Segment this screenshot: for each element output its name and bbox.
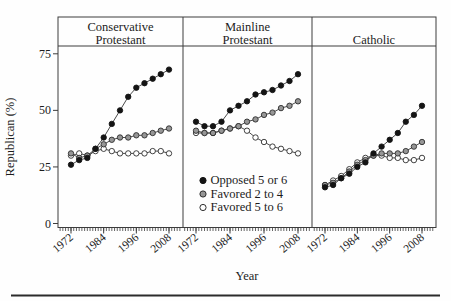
- legend-label: Favored 5 to 6: [211, 200, 284, 214]
- data-point-marker: [419, 155, 424, 160]
- data-point-marker: [227, 126, 232, 131]
- y-tick-label: 50: [39, 103, 51, 117]
- data-point-marker: [142, 133, 147, 138]
- data-point-marker: [253, 117, 258, 122]
- y-tick-label: 0: [45, 217, 51, 231]
- data-point-marker: [379, 151, 384, 156]
- data-point-marker: [261, 90, 266, 95]
- data-point-marker: [202, 130, 207, 135]
- data-point-marker: [219, 128, 224, 133]
- data-point-marker: [134, 151, 139, 156]
- data-point-marker: [142, 81, 147, 86]
- data-point-marker: [126, 151, 131, 156]
- data-point-marker: [253, 92, 258, 97]
- data-point-marker: [117, 108, 122, 113]
- data-point-marker: [253, 135, 258, 140]
- data-point-marker: [411, 157, 416, 162]
- data-point-marker: [134, 85, 139, 90]
- data-point-marker: [387, 137, 392, 142]
- data-point-marker: [236, 124, 241, 129]
- data-point-marker: [109, 121, 114, 126]
- data-point-marker: [101, 142, 106, 147]
- data-point-marker: [322, 185, 327, 190]
- data-point-marker: [166, 126, 171, 131]
- legend-marker-filled-black: [200, 177, 206, 183]
- legend-item: Favored 5 to 6: [200, 200, 283, 214]
- data-point-marker: [261, 112, 266, 117]
- data-point-marker: [261, 139, 266, 144]
- data-point-marker: [68, 162, 73, 167]
- data-point-marker: [270, 87, 275, 92]
- data-point-marker: [403, 157, 408, 162]
- data-point-marker: [193, 128, 198, 133]
- data-point-marker: [363, 160, 368, 165]
- data-point-marker: [134, 133, 139, 138]
- data-point-marker: [371, 151, 376, 156]
- data-point-marker: [166, 67, 171, 72]
- data-point-marker: [411, 112, 416, 117]
- data-point-marker: [126, 94, 131, 99]
- data-point-marker: [278, 146, 283, 151]
- legend-label: Opposed 5 or 6: [211, 173, 288, 187]
- data-point-marker: [150, 76, 155, 81]
- data-point-marker: [210, 124, 215, 129]
- figure-container: ConservativeProtestantMainlineProtestant…: [0, 0, 451, 301]
- data-point-marker: [295, 72, 300, 77]
- data-point-marker: [158, 148, 163, 153]
- y-tick-label: 75: [39, 47, 51, 61]
- data-point-marker: [126, 135, 131, 140]
- data-point-marker: [355, 164, 360, 169]
- legend-item: Favored 2 to 4: [200, 187, 284, 201]
- three-panel-line-chart: ConservativeProtestantMainlineProtestant…: [0, 0, 451, 301]
- data-point-marker: [244, 119, 249, 124]
- data-point-marker: [287, 103, 292, 108]
- data-point-marker: [244, 128, 249, 133]
- data-point-marker: [150, 148, 155, 153]
- data-point-marker: [85, 155, 90, 160]
- data-point-marker: [109, 148, 114, 153]
- panel-title-mainline-protestant: MainlineProtestant: [223, 20, 274, 47]
- data-point-marker: [270, 144, 275, 149]
- panel-title-conservative-protestant: ConservativeProtestant: [88, 20, 154, 47]
- panel-title-line: Catholic: [353, 33, 396, 47]
- data-point-marker: [387, 151, 392, 156]
- data-point-marker: [403, 148, 408, 153]
- legend: Opposed 5 or 6Favored 2 to 4Favored 5 to…: [200, 173, 287, 214]
- data-point-marker: [347, 171, 352, 176]
- data-point-marker: [158, 128, 163, 133]
- data-point-marker: [227, 108, 232, 113]
- data-point-marker: [278, 105, 283, 110]
- data-point-marker: [166, 151, 171, 156]
- data-point-marker: [287, 78, 292, 83]
- data-point-marker: [270, 110, 275, 115]
- legend-marker-filled-gray: [200, 191, 206, 197]
- data-point-marker: [150, 130, 155, 135]
- x-axis-label: Year: [235, 269, 259, 283]
- data-point-marker: [117, 135, 122, 140]
- data-point-marker: [395, 151, 400, 156]
- data-point-marker: [295, 151, 300, 156]
- data-point-marker: [93, 146, 98, 151]
- data-point-marker: [411, 144, 416, 149]
- data-point-marker: [68, 151, 73, 156]
- data-point-marker: [295, 99, 300, 104]
- data-point-marker: [117, 151, 122, 156]
- data-point-marker: [287, 148, 292, 153]
- data-point-marker: [77, 157, 82, 162]
- data-point-marker: [395, 130, 400, 135]
- data-point-marker: [109, 137, 114, 142]
- data-point-marker: [202, 124, 207, 129]
- legend-label: Favored 2 to 4: [211, 187, 284, 201]
- panel-title-line: Protestant: [96, 33, 147, 47]
- y-axis-label: Republican (%): [3, 98, 17, 177]
- data-point-marker: [330, 182, 335, 187]
- data-point-marker: [244, 99, 249, 104]
- panel-title-line: Protestant: [223, 33, 274, 47]
- legend-marker-open-white: [200, 204, 206, 210]
- data-point-marker: [142, 151, 147, 156]
- data-point-marker: [379, 144, 384, 149]
- data-point-marker: [236, 103, 241, 108]
- data-point-marker: [158, 72, 163, 77]
- data-point-marker: [193, 119, 198, 124]
- data-point-marker: [403, 119, 408, 124]
